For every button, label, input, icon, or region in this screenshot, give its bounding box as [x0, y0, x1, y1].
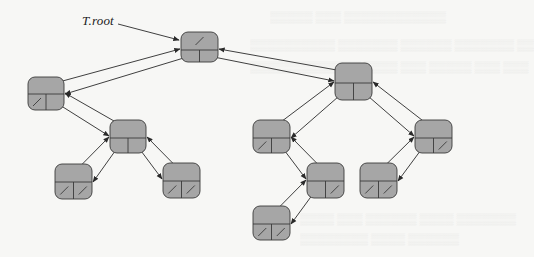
tree-node-c_l	[55, 164, 92, 199]
child-pointer-root-b	[209, 56, 334, 81]
root-pointer-arrow	[118, 24, 179, 40]
tree-node-a	[28, 77, 64, 110]
parent-pointer-a-root	[46, 49, 180, 86]
tree-node-c_r	[163, 163, 200, 198]
nodes-layer	[28, 32, 452, 240]
child-pointer-b-d	[291, 92, 344, 139]
tree-node-e	[415, 120, 452, 153]
child-pointer-b-e	[363, 92, 414, 137]
tree-node-root	[181, 32, 218, 62]
tree-node-f_l	[253, 206, 290, 240]
tree-node-b	[335, 63, 372, 100]
tree-node-e_l	[360, 163, 397, 198]
tree-node-d	[253, 120, 290, 153]
tree-node-f	[307, 163, 344, 198]
root-label: T.root	[82, 13, 114, 29]
tree-node-c	[110, 120, 146, 153]
parent-pointer-b-root	[219, 49, 354, 73]
